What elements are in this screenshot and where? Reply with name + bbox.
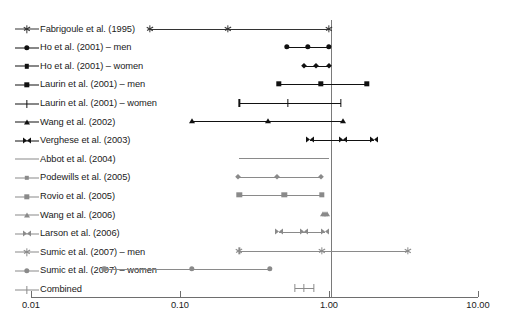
point-estimate-marker bbox=[274, 173, 280, 179]
x-axis-tick bbox=[180, 291, 181, 297]
ci-endpoint-marker-low bbox=[235, 173, 241, 179]
point-estimate-marker bbox=[287, 99, 288, 107]
study-row bbox=[0, 288, 505, 290]
x-axis-tick-label: 0.10 bbox=[171, 300, 189, 310]
ci-endpoint-marker-low bbox=[276, 81, 281, 86]
ci-endpoint-marker-low bbox=[149, 25, 150, 32]
x-axis-line bbox=[31, 297, 478, 298]
ci-endpoint-marker-low bbox=[294, 284, 295, 292]
ci-endpoint-marker-high bbox=[319, 192, 324, 197]
ci-endpoint-marker-high bbox=[370, 136, 378, 143]
ci-endpoint-marker-high bbox=[313, 284, 314, 292]
point-estimate-marker bbox=[281, 192, 286, 197]
study-row bbox=[0, 140, 505, 142]
point-estimate-marker bbox=[339, 136, 347, 143]
point-estimate-marker bbox=[322, 211, 328, 216]
ci-endpoint-marker-high bbox=[328, 25, 329, 32]
point-estimate-marker bbox=[265, 118, 271, 123]
study-row bbox=[0, 177, 505, 179]
study-row bbox=[0, 66, 505, 68]
point-estimate-marker bbox=[300, 229, 308, 236]
x-axis-tick-label: 10.00 bbox=[466, 300, 489, 310]
ci-endpoint-marker-high bbox=[340, 99, 341, 107]
study-row bbox=[0, 251, 505, 253]
ci-endpoint-marker-low bbox=[306, 136, 314, 143]
ci-endpoint-marker-high bbox=[321, 229, 329, 236]
x-axis-tick bbox=[31, 291, 32, 297]
confidence-interval-line bbox=[150, 29, 329, 30]
point-estimate-marker bbox=[322, 247, 323, 254]
confidence-interval-line bbox=[239, 158, 329, 159]
study-row bbox=[0, 47, 505, 49]
ci-endpoint-marker-high bbox=[364, 81, 369, 86]
study-row bbox=[0, 232, 505, 234]
ci-endpoint-marker-low bbox=[239, 99, 240, 107]
ci-endpoint-marker-high bbox=[408, 247, 409, 254]
ci-endpoint-marker-low bbox=[239, 247, 240, 254]
ci-endpoint-marker-high bbox=[318, 173, 324, 179]
confidence-interval-line bbox=[104, 269, 269, 270]
point-estimate-marker bbox=[227, 25, 228, 32]
point-estimate-marker bbox=[318, 81, 323, 86]
x-axis-tick-label: 1.00 bbox=[320, 300, 338, 310]
study-row bbox=[0, 121, 505, 123]
forest-plot-figure: Fabrigoule et al. (1995)Ho et al. (2001)… bbox=[0, 0, 505, 328]
point-estimate-marker bbox=[305, 44, 310, 49]
study-row bbox=[0, 103, 505, 105]
x-axis-tick bbox=[478, 291, 479, 297]
plot-area: 0.010.101.0010.00 bbox=[0, 0, 505, 328]
point-estimate-marker bbox=[189, 266, 194, 271]
ci-endpoint-marker-low bbox=[189, 118, 195, 123]
point-estimate-marker bbox=[303, 284, 304, 292]
ci-endpoint-marker-high bbox=[340, 118, 346, 123]
study-row bbox=[0, 269, 505, 271]
x-axis-tick-label: 0.01 bbox=[22, 300, 40, 310]
ci-endpoint-marker-high bbox=[326, 44, 331, 49]
ci-endpoint-marker-high bbox=[267, 266, 272, 271]
ci-endpoint-marker-low bbox=[275, 229, 283, 236]
ci-endpoint-marker-low bbox=[237, 192, 242, 197]
study-row bbox=[0, 29, 505, 31]
confidence-interval-line bbox=[239, 103, 341, 104]
study-row bbox=[0, 158, 505, 160]
point-estimate-marker bbox=[313, 62, 319, 68]
ci-endpoint-marker-low bbox=[102, 266, 107, 271]
ci-endpoint-marker-low bbox=[284, 44, 289, 49]
study-row bbox=[0, 214, 505, 216]
ci-endpoint-marker-low bbox=[301, 62, 307, 68]
study-row bbox=[0, 195, 505, 197]
x-axis-tick bbox=[329, 291, 330, 297]
study-row bbox=[0, 84, 505, 86]
